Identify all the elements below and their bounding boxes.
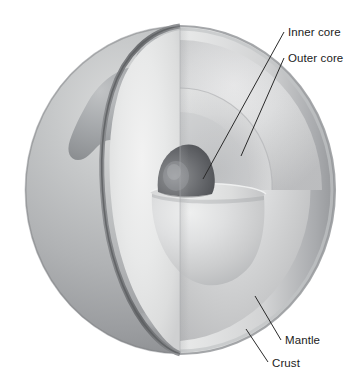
earth-globe [25,26,335,354]
earth-diagram-svg: Inner core Outer core Mantle Crust [0,0,360,382]
label-text-crust: Crust [272,357,301,369]
label-text-inner-core: Inner core [288,26,341,38]
label-text-mantle: Mantle [285,334,320,346]
leader-line-crust [246,329,268,362]
cut-plane-edge [180,26,189,354]
label-text-outer-core: Outer core [288,52,343,64]
earth-cutaway-figure: Inner core Outer core Mantle Crust [0,0,360,382]
